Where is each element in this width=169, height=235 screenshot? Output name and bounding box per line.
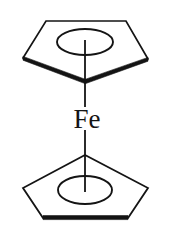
metal-center-label-fe: Fe [74, 106, 101, 133]
upper-ring-bold-edge-left [23, 56, 85, 83]
lower-ring-bold-edge-bottom [43, 216, 128, 220]
ferrocene-structure-figure: Fe [0, 0, 169, 235]
upper-ring-bold-edge-right [85, 57, 148, 83]
